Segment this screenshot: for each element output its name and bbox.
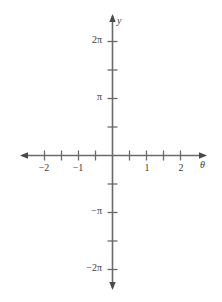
y-tick-label-minus-pi: −π [42, 206, 102, 216]
x-axis-arrow-right-icon [199, 152, 207, 158]
x-axis-arrow-left-icon [20, 152, 28, 158]
y-axis-label: y [117, 16, 121, 26]
x-axis-label: θ [200, 160, 205, 170]
y-axis-arrow-up-icon [109, 14, 115, 22]
y-tick-label-pi: π [42, 92, 102, 102]
y-axis-arrow-down-icon [109, 282, 115, 290]
y-tick-label-minus-2pi: −2π [42, 263, 102, 273]
x-tick-label-minus1: −1 [48, 163, 108, 173]
axes-plot [0, 0, 222, 302]
y-tick-label-2pi: 2π [42, 35, 102, 45]
coordinate-plane-figure: 2π π −π −2π −2 −1 1 2 y θ [0, 0, 222, 302]
